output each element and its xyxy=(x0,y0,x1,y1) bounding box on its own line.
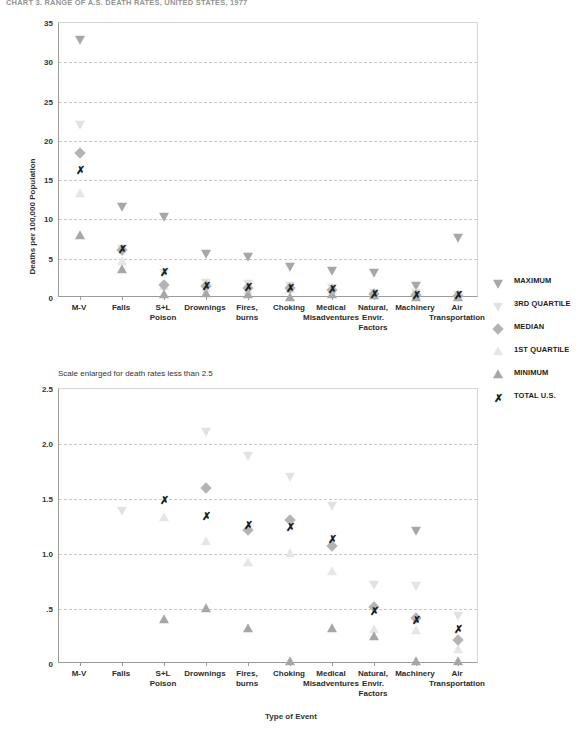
marker-total-us: ✗ xyxy=(242,519,254,531)
filled-up-triangle-icon xyxy=(493,369,503,378)
x-glyph-icon: ✗ xyxy=(492,392,504,404)
marker-median xyxy=(200,482,211,493)
gridline xyxy=(59,219,477,220)
marker-minimum xyxy=(201,603,211,612)
marker-3rd-quartile xyxy=(117,507,127,516)
gridline xyxy=(59,609,477,610)
gridline xyxy=(59,499,477,500)
marker-1st-quartile xyxy=(201,536,211,545)
x-axis-tick xyxy=(248,662,249,666)
marker-maximum xyxy=(285,263,295,272)
legend-label: TOTAL U.S. xyxy=(514,391,556,400)
y-axis-tick-label: 35 xyxy=(13,19,53,28)
marker-total-us: ✗ xyxy=(200,510,212,522)
x-axis-tick xyxy=(164,662,165,666)
x-axis-label: Type of Event xyxy=(0,712,582,721)
marker-total-us: ✗ xyxy=(158,266,170,278)
x-axis-category-label: AirTransportation xyxy=(420,303,494,323)
marker-3rd-quartile xyxy=(201,428,211,437)
legend-label: MAXIMUM xyxy=(514,276,551,285)
gridline xyxy=(59,180,477,181)
scale-note: Scale enlarged for death rates less than… xyxy=(58,369,213,378)
marker-3rd-quartile xyxy=(75,120,85,129)
x-axis-tick xyxy=(374,662,375,666)
gridline xyxy=(59,102,477,103)
marker-1st-quartile xyxy=(285,548,295,557)
marker-total-us: ✗ xyxy=(368,605,380,617)
marker-minimum xyxy=(411,656,421,665)
x-axis-tick xyxy=(122,662,123,666)
marker-1st-quartile xyxy=(327,566,337,575)
filled-down-triangle-icon xyxy=(493,280,503,289)
marker-total-us: ✗ xyxy=(452,623,464,635)
marker-total-us: ✗ xyxy=(326,283,338,295)
marker-maximum xyxy=(159,212,169,221)
marker-maximum xyxy=(201,250,211,259)
marker-total-us: ✗ xyxy=(200,280,212,292)
marker-maximum xyxy=(369,269,379,278)
marker-3rd-quartile xyxy=(285,473,295,482)
x-axis-tick xyxy=(206,662,207,666)
marker-maximum xyxy=(75,36,85,45)
marker-total-us: ✗ xyxy=(242,281,254,293)
marker-total-us: ✗ xyxy=(116,243,128,255)
marker-3rd-quartile xyxy=(411,582,421,591)
marker-maximum xyxy=(453,234,463,243)
legend-row: ✗TOTAL U.S. xyxy=(488,387,582,410)
marker-1st-quartile xyxy=(75,188,85,197)
gridline xyxy=(59,554,477,555)
x-axis-tick xyxy=(80,296,81,300)
marker-minimum xyxy=(243,623,253,632)
bottom-chart-plot-area: 0.51.01.52.02.5✗✗✗✗✗✗✗✗ xyxy=(58,388,478,663)
legend-label: MEDIAN xyxy=(514,322,544,331)
y-axis-tick-label: 1.5 xyxy=(13,495,53,504)
legend-row: 1ST QUARTILE xyxy=(488,341,582,364)
gridline xyxy=(59,141,477,142)
gridline xyxy=(59,62,477,63)
legend-label: 1ST QUARTILE xyxy=(514,345,569,354)
legend-label: MINIMUM xyxy=(514,368,548,377)
y-axis-tick-label: 1.0 xyxy=(13,550,53,559)
marker-3rd-quartile xyxy=(453,611,463,620)
y-axis-tick-label: 0 xyxy=(13,660,53,669)
marker-maximum xyxy=(327,267,337,276)
y-axis-tick-label: 25 xyxy=(13,97,53,106)
marker-total-us: ✗ xyxy=(284,282,296,294)
marker-total-us: ✗ xyxy=(284,521,296,533)
legend-row: MAXIMUM xyxy=(488,272,582,295)
page-title: CHART 3. RANGE OF A.S. DEATH RATES, UNIT… xyxy=(6,0,247,7)
marker-total-us: ✗ xyxy=(368,288,380,300)
y-axis-tick-label: 30 xyxy=(13,58,53,67)
marker-maximum xyxy=(117,203,127,212)
x-axis-tick xyxy=(122,296,123,300)
x-axis-tick xyxy=(332,662,333,666)
marker-minimum xyxy=(75,230,85,239)
top-chart-plot-area: 05101520253035✗✗✗✗✗✗✗✗✗✗ xyxy=(58,22,478,297)
marker-minimum xyxy=(327,623,337,632)
marker-maximum xyxy=(411,527,421,536)
marker-1st-quartile xyxy=(411,625,421,634)
marker-1st-quartile xyxy=(243,557,253,566)
marker-total-us: ✗ xyxy=(326,533,338,545)
y-axis-tick-label: .5 xyxy=(13,605,53,614)
marker-total-us: ✗ xyxy=(410,614,422,626)
legend-row: MEDIAN xyxy=(488,318,582,341)
hollow-up-triangle-icon xyxy=(493,346,503,355)
marker-total-us: ✗ xyxy=(158,494,170,506)
hollow-down-triangle-icon xyxy=(493,303,503,312)
y-axis-tick-label: 2.0 xyxy=(13,440,53,449)
marker-total-us: ✗ xyxy=(74,164,86,176)
marker-median xyxy=(74,148,85,159)
legend-label: 3RD QUARTILE xyxy=(514,299,571,308)
marker-minimum xyxy=(159,614,169,623)
gridline xyxy=(59,444,477,445)
marker-maximum xyxy=(243,253,253,262)
marker-3rd-quartile xyxy=(243,452,253,461)
marker-minimum xyxy=(453,656,463,665)
marker-1st-quartile xyxy=(159,512,169,521)
diamond-icon xyxy=(492,323,503,334)
marker-total-us: ✗ xyxy=(452,289,464,301)
marker-minimum xyxy=(117,264,127,273)
marker-total-us: ✗ xyxy=(410,289,422,301)
marker-3rd-quartile xyxy=(369,581,379,590)
